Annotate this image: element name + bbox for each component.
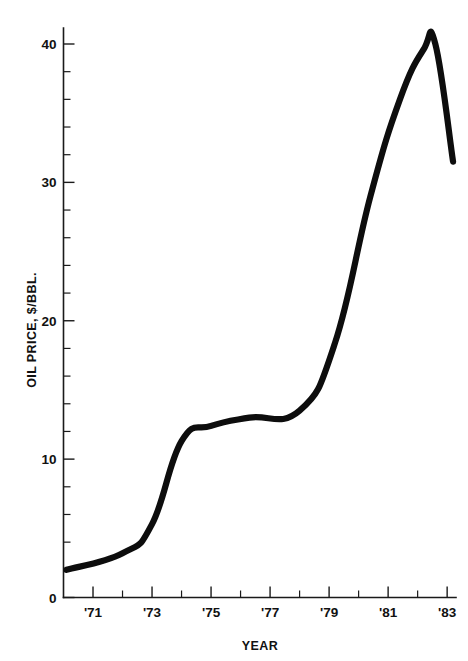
y-axis-ticks	[64, 44, 75, 598]
x-tick-label: '79	[320, 605, 338, 620]
x-tick-label: '83	[438, 605, 457, 620]
oil-price-line-chart: OIL PRICE, $/BBL. YEAR 010203040 '71'73'…	[0, 0, 468, 661]
y-tick-label: 20	[41, 314, 56, 329]
x-axis-ticks	[93, 587, 447, 598]
x-axis-label: YEAR	[242, 639, 278, 653]
x-tick-label: '75	[202, 605, 221, 620]
data-series-line	[66, 32, 453, 570]
x-tick-label: '81	[379, 605, 398, 620]
y-axis-label: OIL PRICE, $/BBL.	[25, 272, 39, 388]
x-tick-label: '73	[143, 605, 162, 620]
y-axis-tick-labels: 010203040	[41, 37, 56, 606]
x-tick-label: '71	[84, 605, 103, 620]
y-tick-label: 40	[41, 37, 56, 52]
x-axis-tick-labels: '71'73'75'77'79'81'83	[84, 605, 457, 620]
chart-figure: OIL PRICE, $/BBL. YEAR 010203040 '71'73'…	[0, 0, 468, 661]
x-tick-label: '77	[261, 605, 279, 620]
y-tick-label: 10	[41, 452, 56, 467]
y-tick-label: 30	[41, 175, 56, 190]
y-tick-label: 0	[49, 591, 57, 606]
